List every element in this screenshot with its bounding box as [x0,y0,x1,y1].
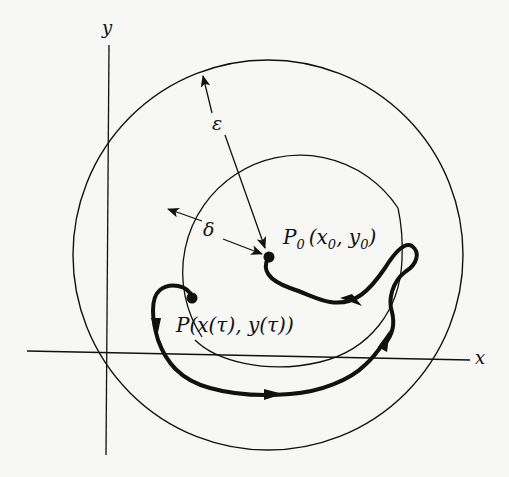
p-label: P(x(τ), y(τ)) [175,313,294,337]
delta-radius-arrow [168,209,262,254]
p0-label: P0(x0, y0) [282,225,376,252]
delta-label: δ [203,218,214,240]
epsilon-label: ε [212,112,222,134]
y-axis-label: y [101,17,113,38]
p0-point [264,252,275,263]
y-axis [106,45,109,455]
x-axis-label: x [475,347,485,368]
x-axis [27,351,470,360]
stability-diagram: y x ε δ P0(x0, y0) P(x(τ), y(τ)) [0,0,509,477]
p-point [187,293,198,304]
